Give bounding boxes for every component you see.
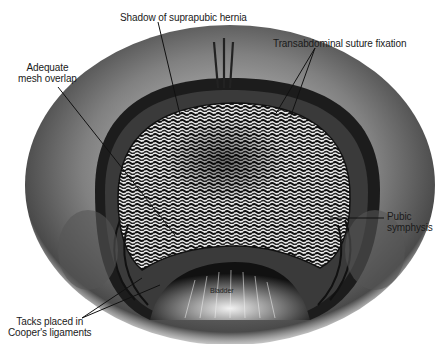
illustration: Shadow of suprapubic hernia Adequate mes… [0, 0, 439, 344]
label-suture-fixation: Transabdominal suture fixation [273, 38, 406, 49]
label-pubic-symphysis: Pubic symphysis [387, 211, 433, 233]
label-mesh-overlap: Adequate mesh overlap [18, 62, 77, 84]
label-tacks-line1: Tacks placed in [8, 316, 91, 327]
label-tacks-line2: Cooper's ligaments [8, 327, 91, 338]
label-mesh-overlap-line2: mesh overlap [18, 73, 77, 84]
label-pubic-line1: Pubic [387, 211, 433, 222]
label-bladder: Bladder [210, 285, 233, 296]
label-mesh-overlap-line1: Adequate [18, 62, 77, 73]
label-shadow-of-hernia: Shadow of suprapubic hernia [120, 12, 247, 23]
label-cooper-tacks: Tacks placed in Cooper's ligaments [8, 316, 91, 338]
label-pubic-line2: symphysis [387, 222, 433, 233]
hernia-shadow [165, 118, 285, 202]
